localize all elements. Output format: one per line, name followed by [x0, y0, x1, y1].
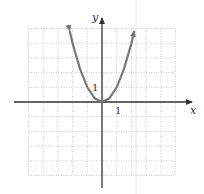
- y-tick-1: 1: [92, 82, 98, 93]
- y-axis-label: y: [91, 11, 99, 24]
- parabola-graph: x y 1 1: [0, 0, 204, 194]
- x-tick-1: 1: [115, 105, 121, 116]
- x-axis-label: x: [190, 104, 197, 117]
